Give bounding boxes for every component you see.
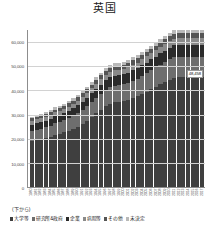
legend-item[interactable]: 病院等: [83, 216, 102, 222]
bar-segment: [191, 77, 195, 187]
bar-segment: [62, 132, 66, 187]
chart-title: 英国: [0, 1, 209, 15]
bar-segment: [99, 85, 103, 94]
x-axis-tick-label: 1998: [112, 189, 116, 207]
bar-segment: [122, 84, 126, 101]
bar-segment: [181, 77, 185, 187]
x-axis-tick-label: 2001: [126, 189, 130, 207]
y-axis-tick-label: 40,000: [11, 88, 24, 93]
bar-segment: [136, 96, 140, 187]
bar-segment: [76, 127, 80, 187]
bar-segment: [163, 62, 167, 82]
legend-label: その他: [108, 216, 122, 222]
x-axis-labels: 1980198119821983198419851986198719881989…: [28, 189, 205, 207]
bar-segment: [186, 45, 190, 57]
legend-label: 研究所&政府: [36, 216, 63, 222]
y-axis-tick-label: 0: [22, 186, 24, 191]
gridline: [28, 115, 205, 116]
x-axis-tick-label: 1991: [80, 189, 84, 207]
x-axis-tick-label: 2008: [158, 189, 162, 207]
x-axis-tick-label: 1982: [38, 189, 42, 207]
y-axis-tick-label: 60,000: [11, 40, 24, 45]
bar-segment: [200, 77, 204, 187]
bar-segment: [163, 51, 167, 62]
legend-note: (下から): [12, 206, 30, 213]
y-axis-tick-label: 10,000: [11, 161, 24, 166]
bar-segment: [168, 59, 172, 80]
bar-segment: [104, 80, 108, 89]
bar-segment: [81, 110, 85, 124]
legend-swatch-icon: [126, 217, 129, 220]
bar-segment: [158, 65, 162, 85]
bar-segment: [131, 81, 135, 99]
legend-swatch-icon: [32, 217, 35, 220]
x-axis-tick-label: 2014: [186, 189, 190, 207]
bar-segment: [117, 75, 121, 85]
bar-segment: [131, 70, 135, 80]
bar-segment: [149, 59, 153, 70]
bar-segment: [172, 57, 176, 78]
bar-segment: [44, 127, 48, 138]
bar-segment: [76, 105, 80, 113]
legend-item[interactable]: 未決定: [126, 216, 145, 222]
y-axis-labels: 60,00050,00040,00030,00020,00010,0000: [0, 30, 26, 188]
legend-label: 大学等: [14, 216, 28, 222]
bar-segment: [145, 73, 149, 92]
bar-segment: [168, 48, 172, 59]
bar-segment: [44, 121, 48, 128]
bar-segment: [200, 45, 204, 57]
gridline: [28, 90, 205, 91]
bar-segment: [172, 45, 176, 57]
x-axis-tick-label: 1993: [89, 189, 93, 207]
bar-segment: [177, 45, 181, 57]
bar-segment: [108, 104, 112, 187]
bar-segment: [126, 100, 130, 187]
bar-segment: [30, 141, 34, 187]
bar-segment: [172, 78, 176, 187]
bar-segment: [186, 77, 190, 187]
bar-segment: [154, 87, 158, 187]
x-axis-tick-label: 2017: [200, 189, 204, 207]
legend-label: 企業: [70, 216, 80, 222]
bar-segment: [90, 93, 94, 102]
bar-segment: [90, 117, 94, 187]
legend-swatch-icon: [104, 217, 107, 220]
x-axis-tick-label: 1985: [52, 189, 56, 207]
bar-segment: [163, 82, 167, 187]
x-axis-tick-label: 1996: [103, 189, 107, 207]
bar-segment: [67, 118, 71, 131]
bar-segment: [49, 126, 53, 137]
bar-segment: [191, 45, 195, 57]
legend-item[interactable]: 大学等: [10, 216, 29, 222]
legend-swatch-icon: [10, 217, 13, 220]
x-axis-tick-label: 2006: [149, 189, 153, 207]
legend-label: 病院等: [87, 216, 101, 222]
bar-segment: [163, 44, 167, 51]
bar-segment: [136, 79, 140, 97]
legend-item[interactable]: 研究所&政府: [32, 216, 63, 222]
x-axis-tick-label: 1980: [29, 189, 33, 207]
data-point-label: 48,458: [187, 70, 203, 78]
legend-item[interactable]: 企業: [66, 216, 80, 222]
gridline: [28, 66, 205, 67]
bar-segment: [99, 94, 103, 110]
bar-segment: [168, 80, 172, 187]
bar-segment: [195, 77, 199, 187]
bar-segment: [104, 106, 108, 187]
x-axis-tick-label: 1995: [98, 189, 102, 207]
y-axis-tick-label: 30,000: [11, 113, 24, 118]
gridline: [28, 42, 205, 43]
bar-segment: [117, 85, 121, 102]
bar-segment: [94, 98, 98, 113]
bar-segment: [158, 84, 162, 187]
bar-segment: [177, 77, 181, 187]
bar-segment: [58, 134, 62, 187]
bar-segment: [71, 116, 75, 129]
bar-segment: [49, 119, 53, 126]
bar-segment: [126, 73, 130, 83]
legend-item[interactable]: その他: [104, 216, 123, 222]
bar-segment: [53, 123, 57, 135]
x-axis-tick-label: 1988: [66, 189, 70, 207]
bar-segment: [53, 135, 57, 187]
x-axis-tick-label: 2003: [135, 189, 139, 207]
